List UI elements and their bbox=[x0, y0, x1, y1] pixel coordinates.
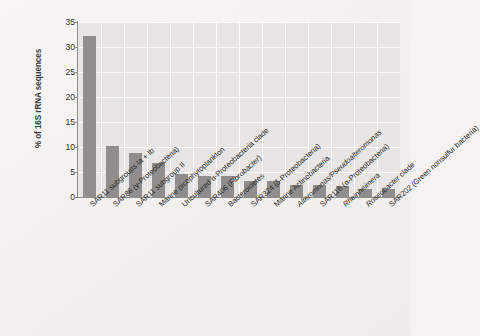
bar[interactable] bbox=[198, 176, 211, 198]
y-tick-25: 25 bbox=[35, 67, 75, 77]
bar-column[interactable] bbox=[147, 22, 170, 197]
bar-column[interactable] bbox=[170, 22, 193, 197]
bar[interactable] bbox=[382, 189, 395, 197]
bar[interactable] bbox=[221, 176, 234, 197]
bar-column[interactable] bbox=[285, 22, 308, 197]
y-tick-0: 0 bbox=[35, 192, 75, 202]
bar[interactable] bbox=[152, 163, 165, 197]
bar[interactable] bbox=[83, 36, 96, 198]
y-axis-line bbox=[77, 21, 78, 198]
y-tick-30: 30 bbox=[35, 42, 75, 52]
bar[interactable] bbox=[359, 189, 372, 198]
y-tick-5: 5 bbox=[35, 167, 75, 177]
bar[interactable] bbox=[106, 146, 119, 197]
y-tick-20: 20 bbox=[35, 92, 75, 102]
bar-column[interactable] bbox=[239, 22, 262, 197]
bar[interactable] bbox=[244, 181, 257, 198]
bar-column[interactable] bbox=[377, 22, 400, 197]
y-axis-tick-labels: 35 30 25 20 15 10 5 0 bbox=[30, 0, 75, 336]
bar-column[interactable] bbox=[124, 22, 147, 197]
plot-area bbox=[78, 22, 400, 197]
x-axis-label: SAR202 (Green nonsulfur bacteria) bbox=[387, 123, 480, 208]
y-tick-10: 10 bbox=[35, 142, 75, 152]
bar[interactable] bbox=[175, 174, 188, 197]
bar[interactable] bbox=[267, 181, 280, 198]
bar-column[interactable] bbox=[216, 22, 239, 197]
bar-column[interactable] bbox=[101, 22, 124, 197]
bar[interactable] bbox=[336, 186, 349, 197]
bar[interactable] bbox=[290, 185, 303, 197]
bar[interactable] bbox=[129, 153, 142, 197]
bar-column[interactable] bbox=[331, 22, 354, 197]
x-axis-line bbox=[77, 197, 401, 198]
bar-column[interactable] bbox=[78, 22, 101, 197]
bar-column[interactable] bbox=[193, 22, 216, 197]
y-tick-35: 35 bbox=[35, 17, 75, 27]
bar-column[interactable] bbox=[354, 22, 377, 197]
bar-column[interactable] bbox=[308, 22, 331, 197]
bar-column[interactable] bbox=[262, 22, 285, 197]
bar[interactable] bbox=[313, 185, 326, 197]
y-tick-15: 15 bbox=[35, 117, 75, 127]
